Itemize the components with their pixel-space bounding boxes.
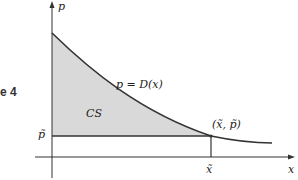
figure-caption-fragment: e 4 [0, 85, 17, 99]
demand-curve-label: p = D(x) [116, 78, 163, 91]
consumer-surplus-diagram: e 4 p x p = D(x) CS p̃ x̃ (x̃, p̃) [0, 0, 298, 180]
price-tick-label: p̃ [38, 128, 45, 141]
consumer-surplus-label: CS [86, 107, 102, 120]
equilibrium-point-label: (x̃, p̃) [212, 118, 241, 131]
y-axis-arrow-icon [50, 1, 55, 8]
x-axis-label: x [288, 163, 295, 176]
y-axis-label: p [58, 0, 65, 13]
x-axis-arrow-icon [288, 155, 295, 160]
equilibrium-point [209, 134, 212, 137]
quantity-tick-label: x̃ [206, 163, 213, 176]
